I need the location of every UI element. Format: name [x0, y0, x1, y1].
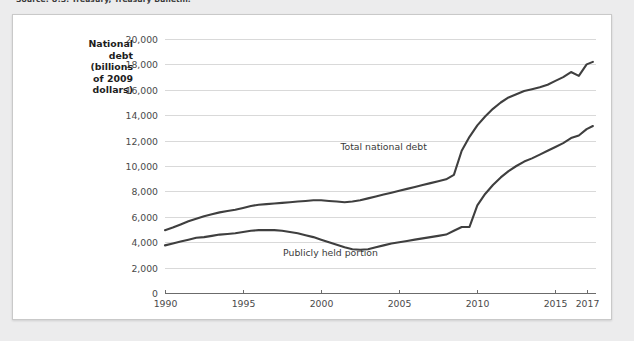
- chart-panel: 02,0004,0006,0008,00010,00012,00014,0001…: [12, 14, 612, 320]
- x-tick-label: 2010: [466, 298, 490, 309]
- y-tick-label: 6,000: [131, 212, 158, 223]
- line-chart: 02,0004,0006,0008,00010,00012,00014,0001…: [13, 15, 613, 321]
- x-tick-label: 2000: [310, 298, 334, 309]
- source-note: Source: U.S. Treasury, Treasury Bulletin…: [16, 0, 191, 4]
- y-tick-label: 12,000: [125, 136, 158, 147]
- x-tick-label: 1990: [154, 298, 178, 309]
- x-tick-label: 2005: [388, 298, 412, 309]
- y-axis-title-line: dollars): [93, 84, 133, 95]
- series-annotation: Total national debt: [339, 141, 427, 152]
- x-tick-label: 1995: [232, 298, 256, 309]
- y-tick-label: 10,000: [125, 161, 158, 172]
- x-tick-label: 2017: [576, 298, 600, 309]
- series-annotation: Publicly held portion: [283, 247, 378, 258]
- y-tick-label: 2,000: [131, 263, 158, 274]
- y-axis-title-line: debt: [109, 50, 134, 61]
- y-tick-label: 8,000: [131, 186, 158, 197]
- y-axis-title-line: of 2009: [93, 73, 133, 84]
- y-axis-title-line: National: [88, 38, 133, 49]
- y-tick-label: 14,000: [125, 110, 158, 121]
- y-tick-label: 4,000: [131, 237, 158, 248]
- x-tick-label: 2015: [544, 298, 568, 309]
- y-axis-title-line: (billions: [90, 61, 133, 72]
- chart-svg: 02,0004,0006,0008,00010,00012,00014,0001…: [13, 15, 613, 321]
